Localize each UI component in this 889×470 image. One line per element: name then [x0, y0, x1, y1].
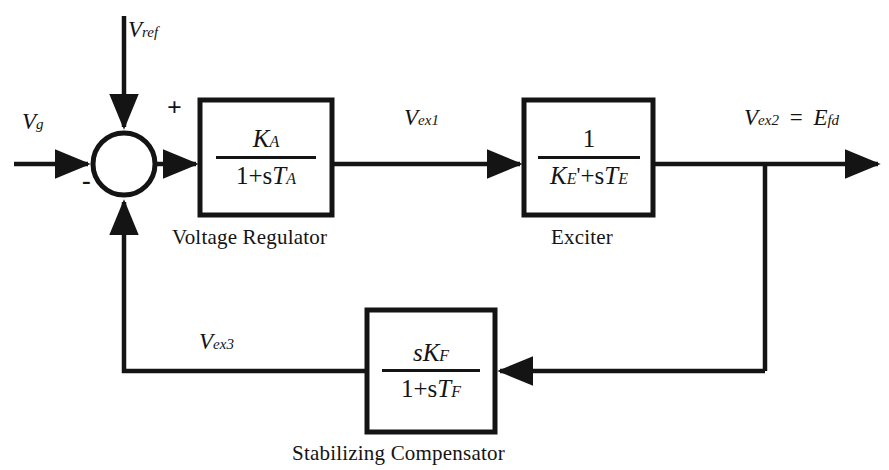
stabilizing-compensator-transfer-function: sKF 1+sTF	[379, 320, 483, 422]
summing-junction-plus-sign: +	[167, 95, 182, 121]
sc-numerator: sKF	[413, 340, 449, 369]
voltage-regulator-transfer-function: KA 1+sTA	[212, 108, 320, 207]
exciter-transfer-function: 1 KE'+sTE	[534, 108, 644, 207]
caption-exciter: Exciter	[551, 227, 613, 248]
exciter-denominator: KE'+sTE	[550, 159, 628, 189]
label-vex3: Vex3	[199, 330, 234, 353]
label-vref: Vref	[128, 18, 158, 41]
exciter-numerator: 1	[583, 126, 596, 155]
caption-stabilizing-compensator: Stabilizing Compensator	[292, 443, 505, 464]
summing-junction-minus-sign: -	[82, 168, 91, 194]
vr-denominator: 1+sTA	[236, 159, 296, 189]
summing-junction-circle	[93, 133, 155, 195]
vr-numerator: KA	[253, 126, 279, 155]
label-vex2-efd: Vex2 = Efd	[744, 106, 839, 129]
label-vg: Vg	[22, 110, 44, 133]
label-vex1: Vex1	[404, 106, 439, 129]
excitation-system-block-diagram: Vref Vg + - Vex1 Vex2 = Efd Vex3 KA 1+sT…	[0, 0, 889, 470]
caption-voltage-regulator: Voltage Regulator	[172, 227, 327, 248]
sc-denominator: 1+sTF	[401, 372, 461, 402]
